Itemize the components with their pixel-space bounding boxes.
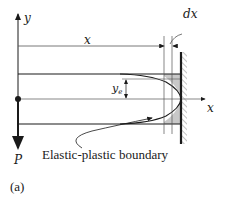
dx-label: dx xyxy=(183,8,197,20)
ye-label-sub: e xyxy=(118,88,122,96)
cantilever-beam-diagram: y x dx ye x P Elastic-plastic boundary (… xyxy=(0,0,226,197)
boundary-annotation: Elastic-plastic boundary xyxy=(42,148,168,161)
x-axis-label: x xyxy=(207,102,214,114)
y-axis-label: y xyxy=(24,12,31,24)
plastic-zone-top xyxy=(164,74,181,97)
diagram-graphics xyxy=(0,0,226,197)
panel-label: (a) xyxy=(10,180,24,193)
ye-label: ye xyxy=(112,83,122,96)
load-label: P xyxy=(14,154,22,166)
plastic-zone-bottom xyxy=(164,101,181,124)
length-label: x xyxy=(84,34,91,46)
